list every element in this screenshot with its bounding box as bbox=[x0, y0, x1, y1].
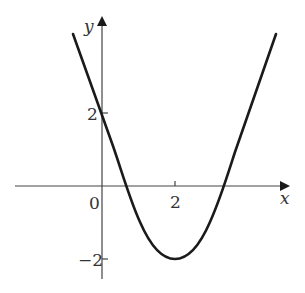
x-axis-label: x bbox=[280, 188, 290, 208]
y-tick-label-2: 2 bbox=[87, 104, 98, 124]
function-curve bbox=[73, 34, 276, 259]
y-tick-label-neg2: −2 bbox=[78, 250, 103, 270]
origin-label: 0 bbox=[89, 193, 100, 213]
y-axis-label: y bbox=[83, 16, 94, 36]
function-graph: y x 0 2 2 −2 bbox=[0, 0, 305, 293]
x-tick-label-2: 2 bbox=[170, 192, 181, 212]
graph-figure: y x 0 2 2 −2 bbox=[0, 0, 305, 293]
